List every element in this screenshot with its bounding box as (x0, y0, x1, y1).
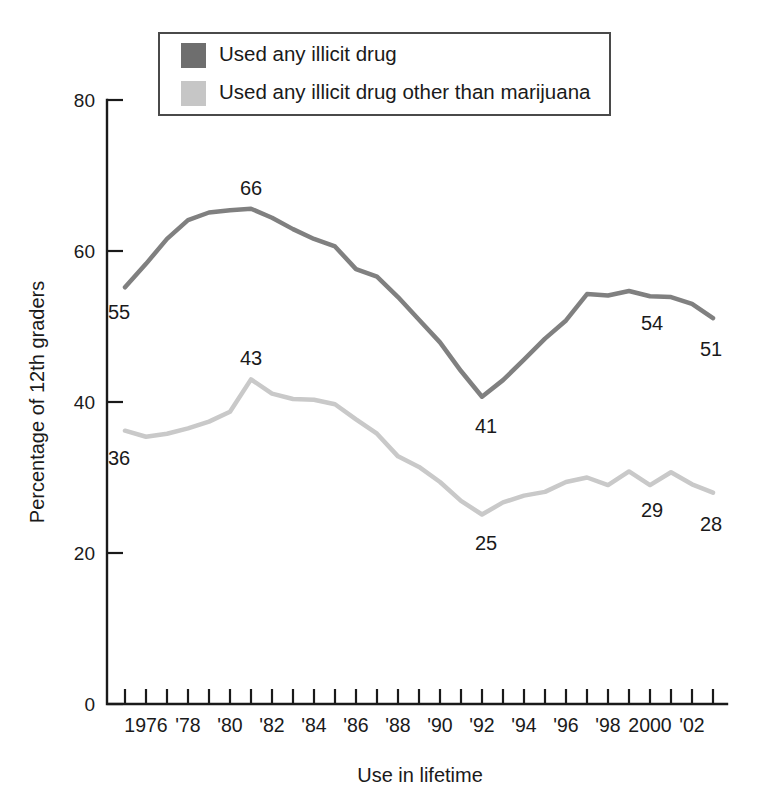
legend-swatch (181, 81, 206, 106)
x-tick-label: '78 (175, 714, 200, 736)
series-line-illicit-drug (125, 209, 713, 397)
data-value-label: 43 (240, 347, 262, 369)
x-tick-label: '80 (217, 714, 243, 736)
y-tick-label: 40 (74, 392, 95, 413)
data-value-label: 41 (475, 415, 497, 437)
x-tick-label: '98 (595, 714, 620, 736)
data-value-label: 28 (700, 513, 722, 535)
x-tick-label: 1976 (124, 714, 167, 736)
data-point-labels: 55664154513643252928 (108, 177, 722, 555)
x-tick-label: '84 (301, 714, 327, 736)
x-tick-label: '88 (385, 714, 410, 736)
y-tick-label: 60 (74, 241, 95, 262)
y-tick-label: 80 (74, 90, 95, 111)
chart-series (125, 209, 713, 515)
legend-label: Used any illicit drug other than marijua… (219, 80, 591, 103)
data-value-label: 29 (641, 499, 663, 521)
x-tick-label: '02 (679, 714, 704, 736)
x-tick-label: '82 (259, 714, 284, 736)
x-axis-title: Use in lifetime (357, 764, 483, 786)
y-tick-label: 0 (84, 694, 95, 715)
legend-swatch (181, 43, 206, 68)
data-value-label: 51 (700, 338, 722, 360)
x-tick-label: '94 (511, 714, 537, 736)
data-value-label: 66 (240, 177, 262, 199)
x-axis-ticks: 1976'78'80'82'84'86'88'90'92'94'96'98200… (124, 689, 713, 736)
x-tick-label: '96 (553, 714, 578, 736)
y-axis-ticks: 020406080 (74, 90, 123, 715)
line-chart: 020406080 1976'78'80'82'84'86'88'90'92'9… (0, 0, 758, 812)
series-line-illicit-drug-non-marijuana (125, 379, 713, 514)
chart-legend: Used any illicit drugUsed any illicit dr… (159, 33, 610, 115)
axis-lines (107, 100, 727, 704)
x-tick-label: '92 (469, 714, 494, 736)
chart-axes (107, 100, 727, 704)
y-axis-title: Percentage of 12th graders (26, 281, 48, 523)
x-tick-label: '86 (343, 714, 368, 736)
y-tick-label: 20 (74, 543, 95, 564)
data-value-label: 54 (641, 312, 663, 334)
data-value-label: 36 (108, 447, 130, 469)
data-value-label: 55 (108, 301, 130, 323)
data-value-label: 25 (475, 532, 497, 554)
x-tick-label: 2000 (628, 714, 672, 736)
legend-label: Used any illicit drug (219, 42, 397, 65)
x-tick-label: '90 (427, 714, 453, 736)
chart-container: 020406080 1976'78'80'82'84'86'88'90'92'9… (0, 0, 758, 812)
